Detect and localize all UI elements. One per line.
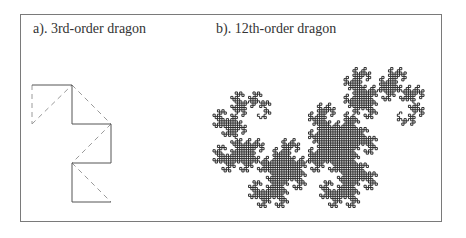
twelfth-order-dragon-curve [213, 68, 424, 208]
third-order-dragon-curve [32, 85, 111, 202]
dragon-diagrams [0, 0, 466, 238]
